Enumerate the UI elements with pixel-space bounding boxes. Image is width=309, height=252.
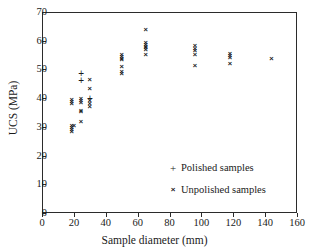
y-tick-label: 20	[37, 150, 48, 161]
cross-marker-icon: ×	[119, 69, 123, 76]
y-axis-title: UCS (MPa)	[7, 48, 19, 168]
legend-label: Unpolished samples	[181, 185, 266, 196]
x-tick-label: 40	[101, 218, 112, 229]
x-tick-label: 20	[69, 218, 80, 229]
cross-marker-icon: ×	[72, 122, 76, 129]
x-tick-label: 120	[225, 218, 241, 229]
cross-marker-icon: ×	[88, 76, 92, 83]
x-tick-label: 100	[194, 218, 210, 229]
chart-legend: +Polished samples×Unpolished samples	[168, 160, 288, 204]
x-tick-label: 140	[257, 218, 273, 229]
x-tick-label: 0	[39, 218, 44, 229]
legend-item: ×Unpolished samples	[168, 182, 288, 204]
x-axis-title: Sample diameter (mm)	[0, 234, 309, 246]
legend-label: Polished samples	[181, 163, 254, 174]
cross-marker-icon: ×	[79, 118, 83, 125]
y-tick-label: 50	[37, 64, 48, 75]
chart-figure: 010203040506070 020406080100120140160 ++…	[0, 0, 309, 252]
y-tick-label: 60	[37, 35, 48, 46]
cross-marker-icon: ×	[88, 103, 92, 110]
cross-marker-icon: ×	[193, 62, 197, 69]
cross-marker-icon: ×	[79, 108, 83, 115]
x-tick-label: 160	[289, 218, 305, 229]
cross-marker-icon: ×	[269, 55, 273, 62]
y-tick-label: 30	[37, 122, 48, 133]
legend-plus-marker-icon: +	[168, 164, 178, 172]
x-tick-label: 60	[132, 218, 143, 229]
y-tick-label: 40	[37, 93, 48, 104]
legend-item: +Polished samples	[168, 160, 288, 182]
x-tick-label: 80	[164, 218, 175, 229]
plus-marker-icon: +	[78, 77, 84, 84]
y-tick-label: 70	[37, 7, 48, 18]
cross-marker-icon: ×	[228, 59, 232, 66]
y-tick-label: 10	[37, 179, 48, 190]
cross-marker-icon: ×	[69, 99, 73, 106]
cross-marker-icon: ×	[88, 85, 92, 92]
cross-marker-icon: ×	[143, 51, 147, 58]
cross-marker-icon: ×	[143, 26, 147, 33]
legend-cross-marker-icon: ×	[168, 186, 178, 194]
cross-marker-icon: ×	[193, 50, 197, 57]
